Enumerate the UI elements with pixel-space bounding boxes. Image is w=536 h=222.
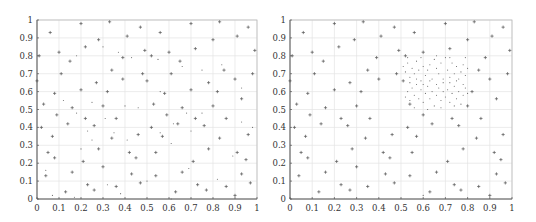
dot-marker bbox=[443, 91, 444, 92]
plus-marker bbox=[306, 156, 309, 159]
plus-marker bbox=[353, 38, 356, 41]
dot-marker bbox=[182, 66, 183, 67]
plus-marker bbox=[189, 88, 192, 91]
plus-marker bbox=[375, 56, 378, 59]
dot-marker bbox=[458, 79, 459, 80]
dot-marker bbox=[407, 91, 408, 92]
y-tick-label: 0.7 bbox=[19, 69, 33, 79]
x-tick-label: 0.1 bbox=[305, 203, 319, 213]
plus-marker bbox=[462, 147, 465, 150]
plus-marker bbox=[134, 156, 137, 159]
plus-marker bbox=[225, 185, 228, 188]
dot-marker bbox=[76, 55, 77, 56]
plus-marker bbox=[181, 171, 184, 174]
dot-marker bbox=[427, 86, 428, 87]
x-tick-label: 0.2 bbox=[74, 203, 88, 213]
x-tick-label: 0.2 bbox=[328, 203, 342, 213]
plus-marker bbox=[506, 72, 509, 75]
y-tick-label: 0 bbox=[28, 194, 33, 204]
plus-marker bbox=[176, 122, 179, 125]
dot-marker bbox=[440, 62, 441, 63]
plus-marker bbox=[504, 181, 507, 184]
x-tick-label: 0 bbox=[34, 203, 39, 213]
plus-marker bbox=[453, 183, 456, 186]
dot-marker bbox=[52, 195, 53, 196]
plus-marker bbox=[106, 90, 109, 93]
dot-marker bbox=[465, 87, 466, 88]
plus-marker bbox=[207, 81, 210, 84]
plus-marker bbox=[139, 26, 142, 29]
plus-marker bbox=[55, 113, 58, 116]
plus-marker bbox=[128, 151, 131, 154]
dot-marker bbox=[449, 57, 450, 58]
dot-marker bbox=[429, 80, 430, 81]
plus-marker bbox=[355, 104, 358, 107]
dot-marker bbox=[429, 64, 430, 65]
plus-marker bbox=[502, 26, 505, 29]
dot-marker bbox=[241, 121, 242, 122]
plus-marker bbox=[53, 156, 56, 159]
plus-marker bbox=[473, 20, 476, 23]
plus-marker bbox=[196, 183, 199, 186]
y-tick-labels: 00.10.20.30.40.50.60.70.80.91 bbox=[19, 15, 39, 204]
plus-marker bbox=[479, 117, 482, 120]
plus-marker bbox=[49, 31, 52, 34]
dot-marker bbox=[120, 193, 121, 194]
plus-marker bbox=[335, 160, 338, 163]
plus-marker bbox=[348, 188, 351, 191]
y-tick-label: 0.7 bbox=[272, 69, 286, 79]
x-tick-label: 0.8 bbox=[206, 203, 220, 213]
dot-marker bbox=[146, 181, 147, 182]
plus-marker bbox=[71, 106, 74, 109]
plus-marker bbox=[93, 188, 96, 191]
dot-marker bbox=[403, 66, 404, 67]
plus-marker bbox=[216, 90, 219, 93]
plus-marker bbox=[324, 106, 327, 109]
dot-marker bbox=[440, 107, 441, 108]
y-tick-label: 1 bbox=[281, 15, 286, 25]
plus-marker bbox=[57, 51, 60, 54]
dot-marker bbox=[113, 132, 114, 133]
dot-marker bbox=[463, 64, 464, 65]
dot-marker bbox=[186, 113, 187, 114]
dot-marker bbox=[443, 82, 444, 83]
y-tick-label: 0.9 bbox=[19, 33, 33, 43]
plus-marker bbox=[71, 171, 74, 174]
plus-marker bbox=[393, 26, 396, 29]
plus-marker bbox=[415, 135, 418, 138]
plus-marker bbox=[207, 147, 210, 150]
dot-marker bbox=[427, 70, 428, 71]
plus-marker bbox=[402, 79, 405, 82]
dot-marker bbox=[456, 66, 457, 67]
plus-marker bbox=[53, 92, 56, 95]
dot-marker bbox=[157, 59, 158, 60]
dot-marker bbox=[423, 195, 424, 196]
plus-marker bbox=[194, 117, 197, 120]
dot-marker bbox=[201, 70, 202, 71]
dot-marker bbox=[447, 89, 448, 90]
x-tick-label: 0.3 bbox=[96, 203, 110, 213]
grid bbox=[290, 20, 512, 199]
plus-marker bbox=[406, 126, 409, 129]
y-tick-labels: 00.10.20.30.40.50.60.70.80.91 bbox=[272, 15, 292, 204]
dot-marker bbox=[434, 105, 435, 106]
plus-marker bbox=[308, 113, 311, 116]
dot-marker bbox=[467, 93, 468, 94]
dot-marker bbox=[423, 66, 424, 67]
plus-marker bbox=[44, 174, 47, 177]
plus-marker bbox=[339, 117, 342, 120]
dot-marker bbox=[467, 68, 468, 69]
plus-marker bbox=[110, 137, 113, 140]
x-tick-label: 0.7 bbox=[439, 203, 453, 213]
y-tick-label: 0.6 bbox=[19, 87, 33, 97]
plus-marker bbox=[339, 183, 342, 186]
plus-marker bbox=[137, 133, 140, 136]
plus-marker bbox=[470, 90, 473, 93]
plus-marker bbox=[466, 38, 469, 41]
dot-marker bbox=[414, 95, 415, 96]
plus-marker bbox=[84, 45, 87, 48]
x-tick-label: 0.9 bbox=[228, 203, 242, 213]
plus-marker bbox=[233, 77, 236, 80]
dot-marker bbox=[440, 100, 441, 101]
plus-marker bbox=[484, 56, 487, 59]
